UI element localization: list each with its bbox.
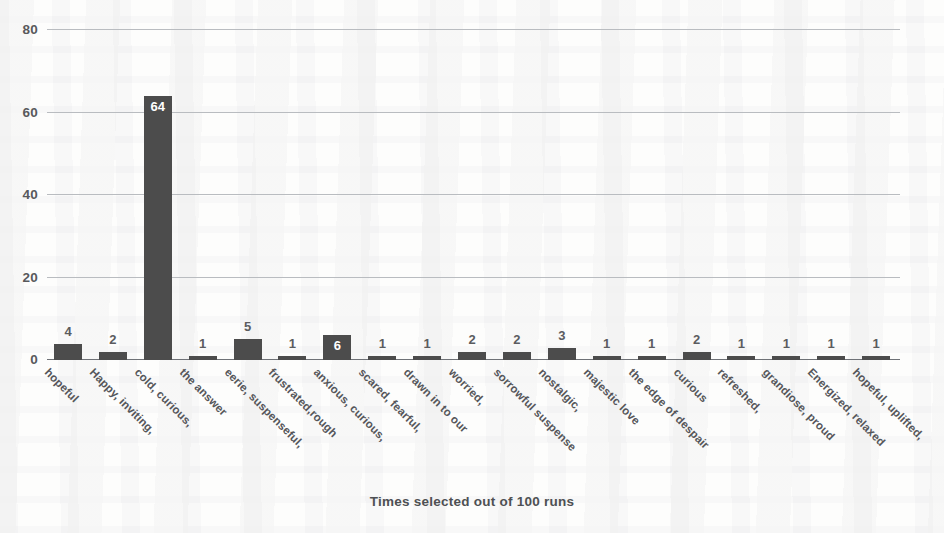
y-axis-tick-label-20: 20 — [23, 269, 38, 284]
x-axis-label: the edge of despair — [626, 366, 711, 451]
bar[interactable] — [234, 339, 262, 360]
bar[interactable] — [772, 356, 800, 360]
bar[interactable] — [593, 356, 621, 360]
bar-value-label: 5 — [234, 319, 262, 334]
bar-value-label: 2 — [683, 332, 711, 347]
bar[interactable] — [54, 344, 82, 361]
x-axis-label: nostalgic, — [536, 366, 584, 414]
bar-value-label: 2 — [99, 332, 127, 347]
x-axis-label: Energized, relaxed — [806, 366, 888, 448]
bar-value-label: 2 — [458, 332, 486, 347]
bar[interactable] — [548, 348, 576, 360]
bar-value-label: 64 — [144, 99, 172, 114]
bar-value-label: 2 — [503, 332, 531, 347]
bar-value-label: 1 — [278, 336, 306, 351]
bar-value-label: 4 — [54, 324, 82, 339]
bar[interactable] — [638, 356, 666, 360]
bar[interactable] — [189, 356, 217, 360]
x-axis-title: Times selected out of 100 runs — [0, 494, 944, 509]
chart-page: 020406080 42641516112231121111 hopefulHa… — [0, 0, 944, 533]
x-axis-label: worried, — [447, 366, 488, 407]
x-axis-label: hopeful — [43, 366, 82, 405]
x-axis-label: refreshed, — [716, 366, 765, 415]
bar-value-label: 1 — [772, 336, 800, 351]
bar-value-label: 6 — [323, 338, 351, 353]
bar-value-label: 1 — [593, 336, 621, 351]
bar[interactable] — [144, 96, 172, 360]
x-axis-label: sorrowful suspense — [491, 366, 578, 453]
bar[interactable] — [458, 352, 486, 360]
bar[interactable] — [683, 352, 711, 360]
bar[interactable] — [368, 356, 396, 360]
bar-value-label: 1 — [817, 336, 845, 351]
y-axis-tick-label-60: 60 — [23, 104, 38, 119]
bar-value-label: 1 — [638, 336, 666, 351]
y-axis-tick-label-0: 0 — [30, 351, 38, 366]
bar[interactable] — [817, 356, 845, 360]
bar[interactable] — [413, 356, 441, 360]
x-axis-label: eerie, suspenseful, — [222, 366, 306, 450]
bar-value-label: 1 — [413, 336, 441, 351]
x-axis-category-labels: hopefulHappy, inviting,cold, curious,the… — [47, 366, 900, 486]
bar-value-label: 1 — [368, 336, 396, 351]
bar[interactable] — [278, 356, 306, 360]
bar[interactable] — [99, 352, 127, 360]
y-axis-tick-label-80: 80 — [23, 22, 38, 37]
bar-value-label: 1 — [862, 336, 890, 351]
bar[interactable] — [862, 356, 890, 360]
bar-value-label: 1 — [727, 336, 755, 351]
y-axis-tick-label-40: 40 — [23, 187, 38, 202]
bar-value-label: 1 — [189, 336, 217, 351]
bar-series: 42641516112231121111 — [47, 30, 900, 360]
plot-area: 020406080 42641516112231121111 — [47, 30, 900, 360]
bar[interactable] — [503, 352, 531, 360]
bar[interactable] — [727, 356, 755, 360]
bar-value-label: 3 — [548, 328, 576, 343]
x-axis-label: curious — [671, 366, 710, 405]
